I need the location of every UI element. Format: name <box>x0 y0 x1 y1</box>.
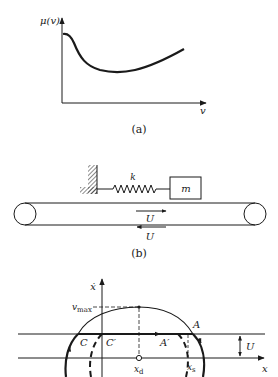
belt-bottom-velocity-label: U <box>146 231 155 242</box>
mu-axis-label: μ(v) <box>40 15 60 26</box>
xd-label: xd <box>134 364 144 376</box>
vmax-label-sub: max <box>77 306 92 314</box>
friction-curve <box>63 34 184 72</box>
mass-label: m <box>181 183 190 194</box>
spring-label: k <box>130 172 135 182</box>
xd-equilibrium-point <box>136 355 141 360</box>
left-roller <box>14 203 36 225</box>
xdot-axis-label: ẋ <box>90 281 96 292</box>
xs-label: xs <box>187 362 196 374</box>
xd-label-sub: d <box>139 368 144 376</box>
point-A-label: A <box>192 319 200 330</box>
point-C-label: C <box>80 337 88 348</box>
friction-chart: μ(v) v (a) <box>40 15 206 136</box>
limit-cycle-outer <box>78 307 193 334</box>
belt-top-velocity-label: U <box>146 213 155 224</box>
point-A-prime-label: A′ <box>159 337 170 348</box>
v-axis-label: v <box>200 105 206 116</box>
x-axis-label: x <box>262 363 268 374</box>
wall-base-hatch <box>80 187 97 194</box>
spring <box>97 185 170 193</box>
figure-canvas: μ(v) v (a) k m U U (b) ẋ x <box>0 0 278 377</box>
caption-b: (b) <box>131 247 147 260</box>
vmax-label: vmax <box>72 302 92 314</box>
right-roller <box>244 203 266 225</box>
U-label: U <box>246 341 255 352</box>
xs-label-sub: s <box>192 366 196 374</box>
caption-a: (a) <box>131 123 146 136</box>
belt-system: k m U U (b) <box>14 165 266 260</box>
point-C-prime-label: C′ <box>106 337 117 348</box>
phase-plane: ẋ x vmax xd xs A A′ <box>18 279 268 377</box>
